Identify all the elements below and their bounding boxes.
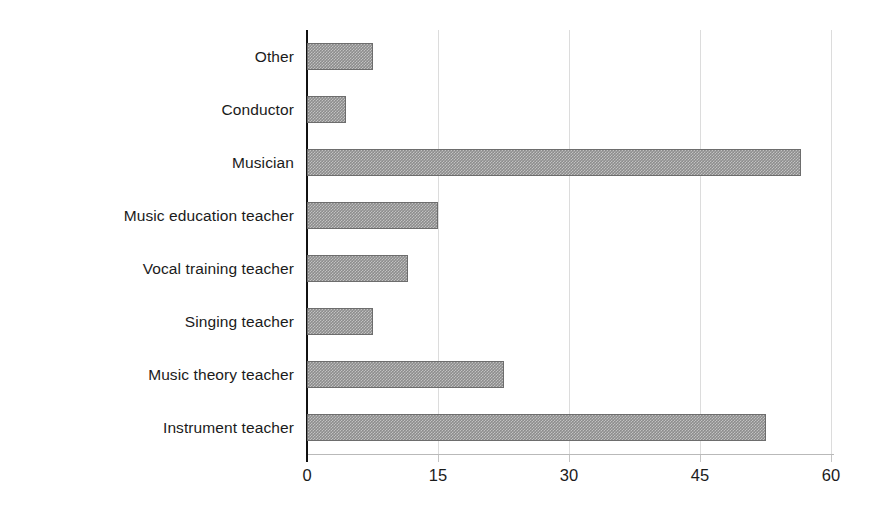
category-label-musician: Musician [232, 136, 294, 189]
category-label-singing-teacher: Singing teacher [185, 295, 294, 348]
category-label-other: Other [255, 30, 294, 83]
xtick-label-30: 30 [539, 466, 599, 485]
plot-area [307, 30, 832, 455]
bar-other [307, 43, 373, 70]
tickmark-30 [569, 455, 570, 462]
category-label-vocal-training-teacher: Vocal training teacher [143, 242, 294, 295]
xtick-label-60: 60 [801, 466, 861, 485]
bar-instrument-teacher [307, 414, 766, 441]
tickmark-15 [438, 455, 439, 462]
category-label-conductor: Conductor [222, 83, 294, 136]
category-label-instrument-teacher: Instrument teacher [163, 401, 294, 454]
xtick-label-0: 0 [277, 466, 337, 485]
category-label-music-education-teacher: Music education teacher [124, 189, 294, 242]
bar-vocal-training-teacher [307, 255, 408, 282]
bar-music-education-teacher [307, 202, 438, 229]
category-label-music-theory-teacher: Music theory teacher [148, 348, 294, 401]
xtick-label-15: 15 [408, 466, 468, 485]
tickmark-60 [831, 455, 832, 462]
category-axis-labels: Other Conductor Musician Music education… [0, 30, 294, 455]
horizontal-bar-chart: Other Conductor Musician Music education… [0, 0, 883, 518]
tickmark-0 [306, 455, 308, 462]
bar-musician [307, 149, 801, 176]
tickmark-45 [700, 455, 701, 462]
bar-singing-teacher [307, 308, 373, 335]
bar-music-theory-teacher [307, 361, 504, 388]
bar-conductor [307, 96, 346, 123]
xtick-label-45: 45 [670, 466, 730, 485]
